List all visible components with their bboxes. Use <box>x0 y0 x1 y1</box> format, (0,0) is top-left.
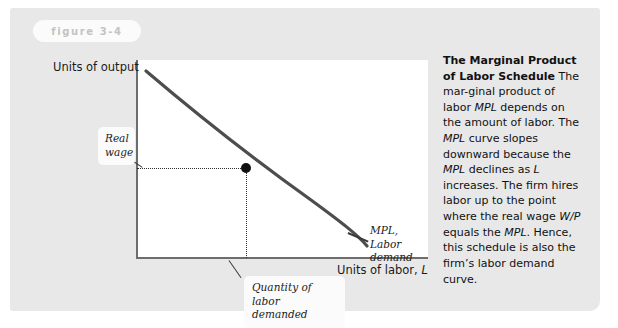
quantity-guide-line <box>246 170 247 258</box>
figure-number-tag: figure 3-4 <box>33 20 141 42</box>
figure-caption: The Marginal Product of Labor Schedule T… <box>443 53 585 287</box>
real-wage-callout: Real wage <box>98 127 135 165</box>
caption-run-10: W/P <box>559 210 580 223</box>
quantity-callout-line1: Quantity of labor <box>252 281 338 308</box>
real-wage-callout-line1: Real <box>105 132 129 146</box>
mpl-label-line1: MPL, Labor <box>370 224 427 251</box>
caption-body: The mar-ginal product of labor MPL depen… <box>443 70 580 286</box>
figure-card: figure 3-4 Units of output Units of labo… <box>10 8 600 311</box>
caption-title-line2: Labor Schedule <box>459 70 555 83</box>
quantity-callout-line2: demanded <box>252 308 338 322</box>
quantity-demanded-callout: Quantity of labor demanded <box>244 276 345 328</box>
mpl-label-line2: demand <box>370 251 427 265</box>
real-wage-guide-line <box>137 168 247 169</box>
caption-run-7: declines as <box>465 163 533 176</box>
caption-run-2: MPL <box>475 101 497 114</box>
figure-number-label: figure 3-4 <box>51 26 122 37</box>
caption-run-6: MPL <box>443 163 465 176</box>
caption-run-12: MPL <box>504 226 526 239</box>
y-axis-title: Units of output <box>53 60 139 74</box>
caption-run-11: equals the <box>443 226 504 239</box>
quantity-leader-line <box>229 260 242 278</box>
caption-run-4: MPL <box>443 132 465 145</box>
caption-run-8: L <box>534 163 540 176</box>
real-wage-callout-line2: wage <box>105 146 129 160</box>
mpl-curve-label: MPL, Labor demand <box>368 222 429 267</box>
equilibrium-point-dot <box>241 163 251 173</box>
